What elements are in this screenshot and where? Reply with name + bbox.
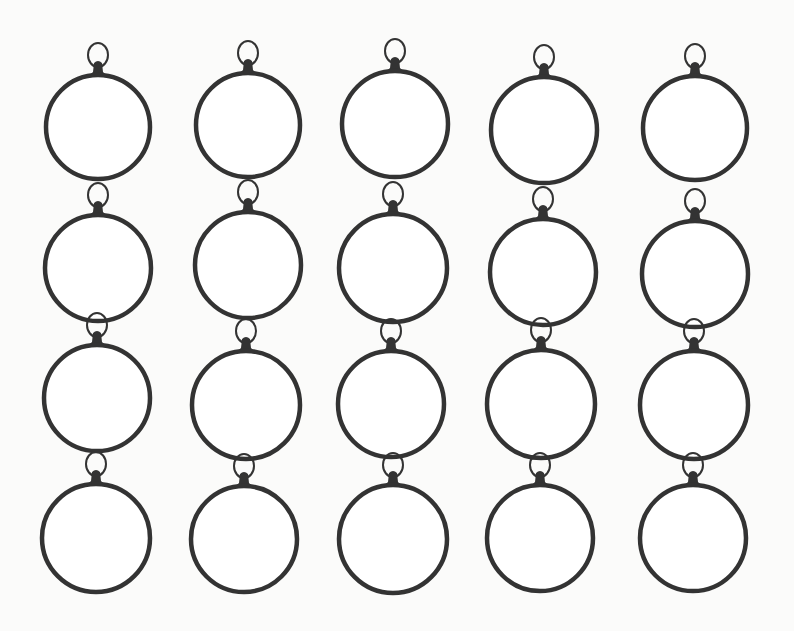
bezel-circle bbox=[640, 485, 746, 591]
bezel-circle bbox=[338, 351, 444, 457]
bezel-circle bbox=[44, 345, 150, 451]
pendant-grid-image bbox=[0, 0, 794, 631]
bezel-circle bbox=[45, 215, 151, 321]
pendant-frame bbox=[642, 189, 748, 327]
bezel-circle bbox=[490, 219, 596, 325]
bezel-circle bbox=[46, 75, 150, 179]
bezel-circle bbox=[191, 486, 297, 592]
bezel-circle bbox=[196, 73, 300, 177]
bezel-circle bbox=[642, 221, 748, 327]
pendant-frame bbox=[640, 319, 748, 459]
bezel-circle bbox=[487, 350, 595, 458]
pendant-frame bbox=[44, 313, 150, 451]
bezel-circle bbox=[192, 351, 300, 459]
pendant-frame bbox=[42, 452, 150, 592]
pendant-frame bbox=[342, 39, 448, 177]
pendant-frame bbox=[491, 45, 597, 183]
pendant-frame bbox=[192, 319, 300, 459]
bezel-circle bbox=[339, 214, 447, 322]
bezel-circle bbox=[640, 351, 748, 459]
pendant-frame bbox=[45, 183, 151, 321]
bezel-circle bbox=[195, 212, 301, 318]
pendant-frame bbox=[487, 453, 593, 591]
bezel-circle bbox=[342, 71, 448, 177]
pendant-frame bbox=[339, 182, 447, 322]
pendant-frame bbox=[643, 44, 747, 180]
bezel-circle bbox=[487, 485, 593, 591]
bezel-circle bbox=[491, 77, 597, 183]
bezel-circle bbox=[42, 484, 150, 592]
pendant-frame bbox=[195, 180, 301, 318]
pendant-frame bbox=[339, 453, 447, 593]
bezel-circle bbox=[339, 485, 447, 593]
pendant-frame bbox=[196, 41, 300, 177]
pendant-frame bbox=[338, 319, 444, 457]
pendant-frame bbox=[191, 454, 297, 592]
pendant-frame bbox=[490, 187, 596, 325]
pendant-frame bbox=[640, 453, 746, 591]
bezel-circle bbox=[643, 76, 747, 180]
pendant-frame bbox=[46, 43, 150, 179]
pendant-frame bbox=[487, 318, 595, 458]
